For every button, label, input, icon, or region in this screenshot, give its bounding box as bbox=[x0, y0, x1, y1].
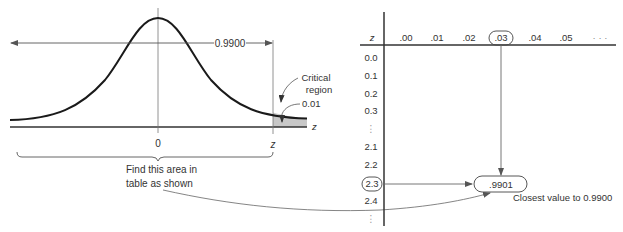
brace-caption-line-1: Find this area in bbox=[126, 164, 197, 175]
column-header: .04 bbox=[528, 32, 541, 43]
normal-curve-figure: 0.9900 Critical region 0.01 z 0 z Find t… bbox=[10, 8, 332, 189]
row-header-ellipsis: ⋮ bbox=[366, 123, 376, 134]
critical-region-shade bbox=[273, 113, 307, 128]
column-header-highlighted: .03 bbox=[494, 32, 507, 43]
found-value: .9901 bbox=[489, 179, 513, 190]
row-header: 2.1 bbox=[364, 141, 377, 152]
table-corner-z: z bbox=[369, 32, 375, 43]
found-value-note: Closest value to 0.9900 bbox=[513, 192, 612, 203]
critical-region-arrow bbox=[281, 78, 298, 102]
z-value-label: z bbox=[270, 139, 276, 150]
caption-to-value-arrow bbox=[163, 190, 490, 211]
column-headers: .00 .01 .02 .03 .04 .05 · · · bbox=[399, 31, 607, 45]
axis-z-label: z bbox=[311, 121, 317, 132]
column-header: .00 bbox=[399, 32, 412, 43]
column-header-ellipsis: · · · bbox=[593, 32, 608, 43]
normal-distribution-table-diagram: 0.9900 Critical region 0.01 z 0 z Find t… bbox=[0, 0, 623, 232]
row-header: 2.2 bbox=[364, 159, 377, 170]
mean-zero-label: 0 bbox=[155, 138, 161, 149]
column-header: .05 bbox=[559, 32, 572, 43]
tail-area-label: 0.01 bbox=[302, 98, 321, 109]
critical-region-label-1: Critical bbox=[301, 72, 330, 83]
row-header-ellipsis: ⋮ bbox=[366, 213, 376, 224]
row-header: 0.0 bbox=[364, 52, 377, 63]
brace-caption-line-2: table as shown bbox=[126, 178, 193, 189]
critical-region-label-2: region bbox=[306, 84, 332, 95]
row-header: 2.4 bbox=[364, 195, 377, 206]
row-header-highlighted: 2.3 bbox=[365, 178, 378, 189]
row-headers: 0.0 0.1 0.2 0.3 ⋮ 2.1 2.2 2.3 2.4 ⋮ bbox=[362, 52, 382, 224]
row-header: 0.1 bbox=[364, 70, 377, 81]
row-header: 0.2 bbox=[364, 88, 377, 99]
column-header: .01 bbox=[430, 32, 443, 43]
area-brace bbox=[17, 152, 273, 161]
row-header: 0.3 bbox=[364, 105, 377, 116]
area-label: 0.9900 bbox=[215, 38, 246, 49]
bell-curve bbox=[10, 18, 307, 120]
column-header: .02 bbox=[462, 32, 475, 43]
